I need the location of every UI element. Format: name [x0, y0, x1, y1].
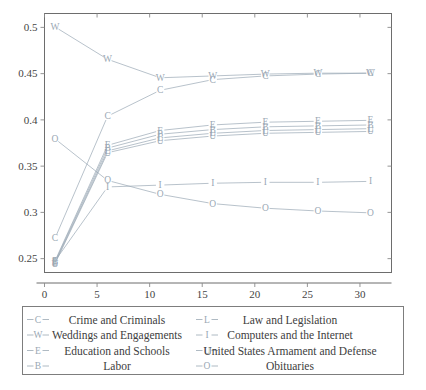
data-point-marker: I: [316, 177, 319, 187]
series-segment: [112, 135, 156, 147]
data-point-marker: C: [52, 233, 58, 243]
series-segment: [57, 149, 106, 257]
x-tick-label: 10: [144, 288, 156, 300]
series-segment: [57, 157, 106, 260]
series-segment: [112, 182, 156, 194]
data-point-marker: O: [262, 203, 269, 213]
series-segment: [217, 134, 261, 136]
data-point-marker: O: [367, 208, 374, 218]
data-point-marker: W: [208, 71, 217, 81]
x-axis-ticks: 051015202530: [37, 283, 392, 300]
series-segment: [322, 132, 366, 133]
data-point-marker: C: [157, 85, 163, 95]
data-point-marker: O: [157, 189, 164, 199]
y-axis-ticks: 0.250.30.350.40.450.5: [18, 21, 44, 264]
y-tick-label: 0.5: [24, 21, 38, 33]
series-segment: [270, 208, 314, 210]
y-tick-label: 0.3: [24, 206, 38, 218]
series-segment: [217, 204, 261, 208]
legend-marker-glyph: C: [35, 315, 41, 325]
series-segment: [217, 182, 261, 183]
y-tick-label: 0.4: [24, 114, 38, 126]
series-C: CCCCCCC: [52, 68, 374, 243]
data-point-marker: U: [209, 131, 216, 141]
series-segment: [322, 211, 366, 213]
series-segment: [270, 73, 314, 74]
legend-label: Computers and the Internet: [227, 329, 353, 342]
data-point-marker: W: [51, 22, 60, 32]
series-segment: [322, 129, 366, 130]
series-segment: [217, 127, 261, 129]
series-segment: [58, 141, 104, 177]
data-point-marker: U: [104, 148, 111, 158]
legend-label: Crime and Criminals: [69, 314, 166, 326]
series-segment: [57, 190, 105, 257]
data-point-marker: U: [157, 136, 164, 146]
series-segment: [270, 126, 314, 127]
data-point-marker: W: [366, 68, 375, 78]
data-point-marker: W: [156, 73, 165, 83]
series-segment: [164, 125, 208, 130]
legend-label: Obituaries: [266, 360, 314, 372]
y-tick-label: 0.35: [18, 160, 38, 172]
legend-label: Law and Legislation: [243, 314, 338, 327]
series-segment: [59, 29, 104, 57]
x-tick-label: 0: [42, 288, 48, 300]
series-I: IIIIIII: [53, 176, 372, 266]
data-point-marker: U: [314, 127, 321, 137]
series-segment: [112, 142, 156, 152]
data-point-marker: W: [103, 54, 112, 64]
series-segment: [270, 130, 314, 131]
series-segment: [217, 74, 261, 76]
legend-marker-glyph: E: [35, 346, 41, 356]
data-point-marker: I: [369, 176, 372, 186]
x-tick-label: 20: [249, 288, 261, 300]
legend-marker-glyph: W: [34, 330, 43, 340]
series-segment: [164, 76, 208, 78]
legend-marker-glyph: L: [204, 315, 210, 325]
data-point-marker: I: [211, 178, 214, 188]
series-segment: [164, 183, 208, 185]
data-point-marker: W: [313, 68, 322, 78]
series-L: LLLLLLL: [52, 124, 373, 268]
chart-legend: CCrime and CriminalsLLaw and Legislation…: [23, 307, 404, 375]
series-segment: [217, 131, 261, 133]
legend-label: Labor: [103, 360, 131, 372]
series-segment: [112, 132, 156, 145]
series-segment: [322, 120, 366, 121]
data-point-marker: U: [52, 259, 59, 269]
right-axis-ticks: [388, 27, 392, 258]
series-layer: CCCCCCCWWWWWWWEEEEEEEBBBBBBBLLLLLLLIIIII…: [51, 22, 375, 269]
x-tick-label: 25: [302, 288, 314, 300]
series-segment: [57, 155, 106, 259]
x-tick-label: 30: [354, 288, 366, 300]
y-tick-label: 0.45: [18, 67, 38, 79]
data-point-marker: U: [367, 126, 374, 136]
line-chart: 0.250.30.350.40.450.5 051015202530 CCCCC…: [0, 0, 426, 390]
legend-entry[interactable]: UUnited States Armament and Defense: [196, 345, 377, 357]
series-segment: [164, 130, 208, 134]
data-point-marker: O: [314, 206, 321, 216]
data-point-marker: O: [52, 134, 59, 144]
series-segment: [270, 74, 314, 76]
series-segment: [111, 92, 156, 114]
series-segment: [112, 139, 156, 150]
series-segment: [217, 122, 261, 124]
legend-marker-glyph: I: [205, 330, 208, 340]
series-segment: [270, 132, 314, 133]
data-point-marker: O: [209, 199, 216, 209]
data-point-marker: U: [262, 128, 269, 138]
legend-marker-glyph: O: [204, 361, 211, 371]
series-segment: [112, 61, 157, 77]
series-segment: [164, 80, 208, 89]
series-O: OOOOOOO: [52, 134, 374, 218]
series-segment: [57, 152, 106, 258]
top-axis-ticks: [45, 14, 360, 18]
series-segment: [164, 195, 208, 203]
x-tick-label: 5: [94, 288, 100, 300]
series-segment: [322, 181, 366, 182]
series-segment: [112, 185, 156, 187]
data-point-marker: O: [104, 175, 111, 185]
legend-label: United States Armament and Defense: [203, 345, 376, 357]
data-point-marker: W: [261, 69, 270, 79]
